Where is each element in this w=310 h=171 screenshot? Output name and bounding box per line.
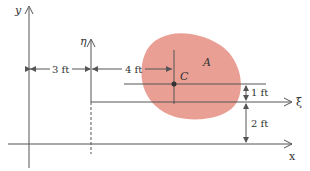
dim-1ft: 1 ft — [251, 87, 268, 98]
x-axis-label: x — [289, 150, 296, 163]
area-label: A — [202, 56, 211, 69]
centroid-label: C — [180, 70, 189, 83]
centroid-point — [172, 82, 177, 87]
dim-2ft: 2 ft — [251, 118, 268, 129]
dim-3ft: 3 ft — [52, 64, 69, 75]
centroid-diagram: y x η ξ C A 3 ft 4 ft 1 ft 2 ft — [0, 0, 310, 171]
eta-axis-label: η — [80, 35, 87, 48]
dim-4ft: 4 ft — [125, 64, 142, 75]
xi-axis-label: ξ — [296, 96, 302, 109]
area-region — [142, 33, 241, 119]
y-axis-label: y — [14, 4, 22, 17]
